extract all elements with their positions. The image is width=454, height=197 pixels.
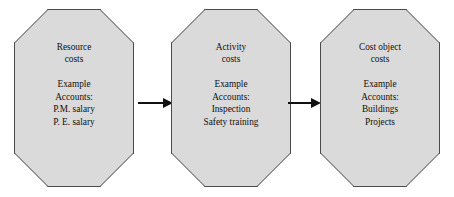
- detail-line: Projects: [365, 116, 395, 128]
- title-line: costs: [371, 53, 390, 65]
- title-line: Activity: [216, 41, 246, 53]
- detail-line: Example: [57, 78, 90, 90]
- node-details-activity-costs: Example Accounts: Inspection Safety trai…: [204, 78, 259, 128]
- detail-line: Inspection: [212, 103, 251, 115]
- title-line: costs: [222, 53, 241, 65]
- detail-line: Safety training: [204, 116, 259, 128]
- node-title-activity-costs: Activity costs: [216, 41, 246, 66]
- detail-line: P.M. salary: [53, 103, 95, 115]
- arrow-resource-to-activity: [138, 97, 173, 109]
- node-title-cost-object-costs: Cost object costs: [359, 41, 401, 66]
- detail-line: Example: [214, 78, 247, 90]
- detail-line: Accounts:: [212, 91, 250, 103]
- arrow-icon: [288, 97, 321, 109]
- detail-line: Example: [363, 78, 396, 90]
- detail-line: Buildings: [362, 103, 398, 115]
- node-text-resource-costs: Resource costs Example Accounts: P.M. sa…: [14, 9, 134, 187]
- node-text-cost-object-costs: Cost object costs Example Accounts: Buil…: [320, 9, 440, 187]
- node-title-resource-costs: Resource costs: [57, 41, 92, 66]
- node-activity-costs[interactable]: Activity costs Example Accounts: Inspect…: [171, 9, 291, 187]
- node-text-activity-costs: Activity costs Example Accounts: Inspect…: [171, 9, 291, 187]
- detail-line: P. E. salary: [53, 116, 94, 128]
- node-details-resource-costs: Example Accounts: P.M. salary P. E. sala…: [53, 78, 95, 128]
- node-details-cost-object-costs: Example Accounts: Buildings Projects: [361, 78, 399, 128]
- arrow-activity-to-cost-object: [288, 97, 321, 109]
- detail-line: Accounts:: [55, 91, 93, 103]
- node-cost-object-costs[interactable]: Cost object costs Example Accounts: Buil…: [320, 9, 440, 187]
- title-line: Cost object: [359, 41, 401, 53]
- title-line: Resource: [57, 41, 92, 53]
- detail-line: Accounts:: [361, 91, 399, 103]
- arrow-icon: [138, 97, 173, 109]
- node-resource-costs[interactable]: Resource costs Example Accounts: P.M. sa…: [14, 9, 134, 187]
- title-line: costs: [65, 53, 84, 65]
- cost-flow-diagram: Resource costs Example Accounts: P.M. sa…: [0, 0, 454, 197]
